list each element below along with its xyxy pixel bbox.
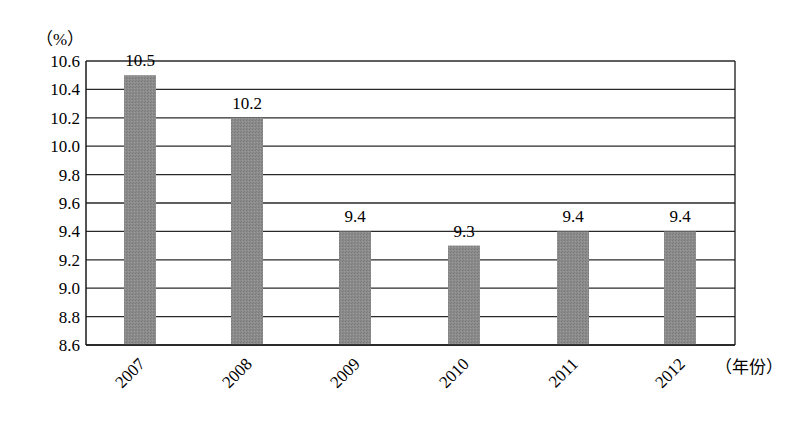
- x-category-label: 2011: [545, 354, 582, 391]
- value-label: 9.4: [669, 207, 691, 226]
- bars: [124, 75, 696, 345]
- y-tick-label: 9.0: [59, 279, 80, 298]
- value-label: 9.4: [562, 207, 584, 226]
- y-tick-label: 9.4: [59, 222, 81, 241]
- y-tick-label: 8.6: [59, 336, 80, 355]
- x-category-label: 2007: [111, 354, 149, 392]
- y-tick-label: 9.8: [59, 166, 80, 185]
- y-tick-label: 10.6: [50, 52, 80, 71]
- y-tick-label: 8.8: [59, 308, 80, 327]
- x-category-label: 2010: [435, 354, 472, 391]
- x-axis-unit-label: （年份）: [715, 358, 783, 377]
- bar-2007: [124, 75, 156, 345]
- value-label: 9.3: [453, 222, 474, 241]
- y-tick-label: 10.0: [50, 137, 80, 156]
- x-category-label: 2008: [218, 354, 255, 391]
- y-axis-unit-label: （%）: [36, 30, 84, 49]
- bar-2012: [664, 231, 696, 345]
- gridlines: [86, 61, 735, 345]
- y-tick-label: 10.4: [50, 80, 80, 99]
- value-label: 10.5: [125, 51, 155, 70]
- y-tick-label: 9.2: [59, 251, 80, 270]
- value-label: 9.4: [344, 207, 366, 226]
- bar-2009: [339, 231, 371, 345]
- value-label: 10.2: [232, 94, 262, 113]
- y-tick-label: 10.2: [50, 109, 80, 128]
- bar-2010: [448, 246, 480, 345]
- y-tick-label: 9.6: [59, 194, 80, 213]
- bar-chart: 10.610.410.210.09.89.69.49.29.08.88.6 10…: [0, 0, 806, 422]
- x-category-label: 2009: [326, 354, 363, 391]
- bar-2008: [231, 118, 263, 345]
- y-tick-labels: 10.610.410.210.09.89.69.49.29.08.88.6: [50, 52, 80, 355]
- x-category-labels: 200720082009201020112012: [111, 354, 688, 392]
- bar-2011: [557, 231, 589, 345]
- x-category-label: 2012: [651, 354, 688, 391]
